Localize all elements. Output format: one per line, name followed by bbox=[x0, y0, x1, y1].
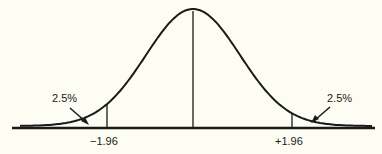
normal-curve-diagram: 2.5% 2.5% −1.96 +1.96 bbox=[0, 0, 382, 154]
right-critical-value: +1.96 bbox=[275, 135, 303, 147]
right-tail-percent: 2.5% bbox=[327, 92, 352, 104]
left-critical-value: −1.96 bbox=[90, 135, 118, 147]
curve-svg bbox=[0, 0, 382, 154]
bell-curve bbox=[20, 9, 372, 126]
right-tail-arrow bbox=[311, 107, 330, 123]
left-tail-percent: 2.5% bbox=[52, 92, 77, 104]
